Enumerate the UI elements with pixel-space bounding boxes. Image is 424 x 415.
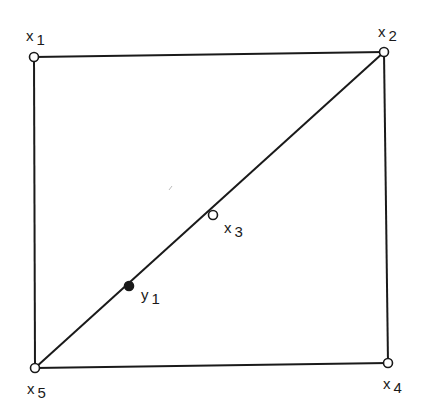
label-x2-sub: 2 [389, 27, 397, 44]
edge-x5-x2 [35, 52, 384, 368]
edges [34, 52, 388, 368]
label-y1: y1 [141, 287, 160, 303]
node-x5-open-circle [31, 364, 40, 373]
node-x4-open-circle [384, 359, 393, 368]
stray-mark [169, 186, 172, 190]
edge-x2-x4 [384, 52, 388, 363]
label-x5: x5 [27, 381, 46, 397]
label-x1-sub: 1 [37, 31, 45, 48]
node-x2-open-circle [380, 48, 389, 57]
label-x4-base: x [383, 375, 391, 392]
label-y1-sub: 1 [152, 290, 160, 307]
label-x4: x4 [383, 376, 402, 392]
edge-x1-x2 [34, 52, 384, 57]
label-x5-sub: 5 [38, 384, 46, 401]
label-x1-base: x [26, 27, 34, 44]
label-x2-base: x [378, 23, 386, 40]
label-x1: x1 [26, 28, 45, 44]
node-x1-open-circle [30, 53, 39, 62]
label-x3-base: x [224, 219, 232, 236]
edge-x4-x5 [35, 363, 388, 368]
label-x5-base: x [27, 380, 35, 397]
label-x3-sub: 3 [235, 223, 243, 240]
node-y1-filled-dot [125, 282, 134, 291]
node-x3-open-circle [209, 211, 218, 220]
edge-x5-x1 [34, 57, 35, 368]
label-x2: x2 [378, 24, 397, 40]
label-x3: x3 [224, 220, 243, 236]
label-x4-sub: 4 [394, 379, 402, 396]
label-y1-base: y [141, 286, 149, 303]
graph-diagram [0, 0, 424, 415]
